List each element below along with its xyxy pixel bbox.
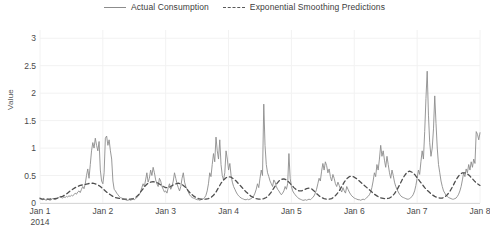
chart-legend: Actual Consumption Exponential Smoothing…: [0, 2, 489, 12]
x-axis-tick-labels: Jan 12014Jan 2Jan 3Jan 4Jan 5Jan 6Jan 7J…: [40, 206, 480, 236]
x-axis-tick-label: Jan 2: [92, 206, 113, 217]
legend-swatch-solid-line: [104, 7, 126, 8]
y-axis-tick-label: 2.5: [2, 61, 36, 71]
y-axis-tick-label: 2: [2, 88, 36, 98]
x-axis-tick-label: Jan 8: [470, 206, 490, 217]
legend-swatch-dashed-line: [223, 7, 245, 8]
x-axis-tick-label: Jan 12014: [30, 206, 51, 228]
x-axis-tick-label: Jan 5: [281, 206, 302, 217]
y-axis-tick-labels: 00.511.522.53: [0, 30, 36, 203]
x-axis-tick-label: Jan 3: [155, 206, 176, 217]
chart-plot-svg: [40, 30, 480, 203]
y-axis-tick-label: 1: [2, 143, 36, 153]
series-line-actual-consumption: [40, 71, 480, 200]
legend-label-actual-consumption: Actual Consumption: [131, 2, 209, 12]
y-axis-tick-label: 1.5: [2, 116, 36, 126]
x-axis-tick-label: Jan 4: [218, 206, 239, 217]
x-axis-tick-label-text: Jan 1: [30, 206, 51, 216]
x-axis-line: [40, 203, 480, 204]
x-axis-tick-label-text: Jan 6: [344, 206, 365, 216]
x-axis-tick-sublabel-year: 2014: [30, 217, 51, 228]
legend-entry-exponential-smoothing-predictions: Exponential Smoothing Predictions: [223, 2, 385, 12]
legend-label-exponential-smoothing-predictions: Exponential Smoothing Predictions: [250, 2, 385, 12]
legend-entry-actual-consumption: Actual Consumption: [104, 2, 209, 12]
x-axis-tick-label-text: Jan 8: [470, 206, 490, 216]
x-axis-tick-label-text: Jan 5: [281, 206, 302, 216]
x-axis-tick-label-text: Jan 2: [92, 206, 113, 216]
x-axis-tick-label-text: Jan 3: [155, 206, 176, 216]
x-axis-tick-label: Jan 7: [407, 206, 428, 217]
x-axis-tick-label-text: Jan 7: [407, 206, 428, 216]
x-axis-tick-label-text: Jan 4: [218, 206, 239, 216]
y-axis-tick-label: 0.5: [2, 171, 36, 181]
y-axis-tick-label: 3: [2, 33, 36, 43]
plot-area: [40, 30, 480, 203]
x-axis-tick-label: Jan 6: [344, 206, 365, 217]
